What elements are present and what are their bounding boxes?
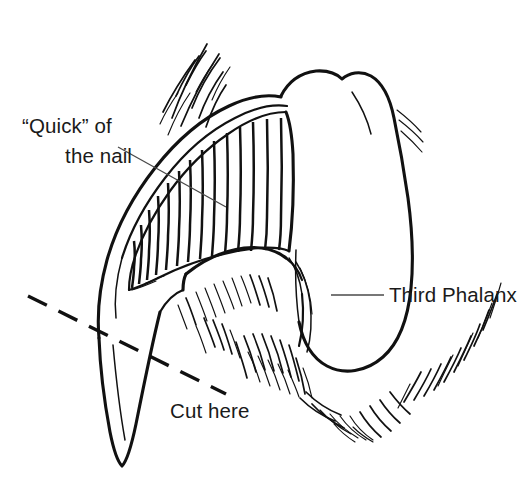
third-phalanx-label: Third Phalanx: [389, 283, 517, 306]
claw-anatomy-illustration: “Quick” of the nail Third Phalanx Cut he…: [0, 0, 532, 479]
quick-label-line2: the nail: [65, 144, 132, 167]
quick-label-line1: “Quick” of: [22, 114, 112, 137]
cut-here-label: Cut here: [170, 399, 249, 422]
anatomy-figure: “Quick” of the nail Third Phalanx Cut he…: [0, 0, 532, 479]
